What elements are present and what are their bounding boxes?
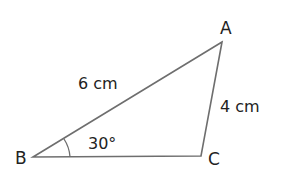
side-label-ab: 6 cm — [78, 74, 118, 93]
angle-b-arc — [64, 139, 70, 157]
side-label-ac: 4 cm — [220, 97, 260, 116]
triangle-abc — [33, 42, 222, 157]
vertex-label-a: A — [220, 18, 232, 38]
angle-label-b: 30° — [88, 134, 116, 153]
triangle-diagram: A B C 6 cm 4 cm 30° — [0, 0, 287, 170]
vertex-label-b: B — [15, 148, 27, 168]
vertex-label-c: C — [208, 149, 220, 169]
